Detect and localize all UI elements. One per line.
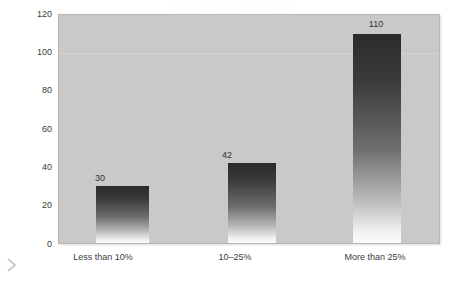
plot-area — [58, 14, 440, 244]
chart-figure: Number of countries, by share Number of … — [0, 0, 464, 286]
x-tick-label-10-25: 10–25% — [197, 252, 273, 262]
y-tick-label-60: 60 — [22, 124, 52, 134]
bar-value-label-0: 30 — [84, 173, 116, 183]
chevron-right-icon[interactable] — [4, 256, 20, 274]
bar-10-25[interactable] — [228, 163, 276, 243]
y-tick-label-0: 0 — [22, 239, 52, 249]
bar-less-than-10[interactable] — [96, 186, 149, 243]
y-tick-label-80: 80 — [22, 85, 52, 95]
y-tick-label-100: 100 — [22, 47, 52, 57]
x-tick-label-more-than-25: More than 25% — [330, 252, 420, 262]
x-tick-label-less-than-10: Less than 10% — [61, 252, 145, 262]
bar-more-than-25[interactable] — [353, 34, 401, 243]
y-tick-label-20: 20 — [22, 200, 52, 210]
y-tick-label-40: 40 — [22, 162, 52, 172]
y-tick-label-120: 120 — [22, 9, 52, 19]
bar-value-label-2: 110 — [360, 19, 392, 29]
bar-value-label-1: 42 — [211, 150, 243, 160]
chart-title: Number of countries, by share — [0, 2, 464, 12]
